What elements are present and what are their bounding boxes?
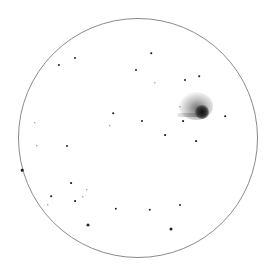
star [141,120,143,122]
star [74,200,76,202]
star [70,182,72,184]
star [195,140,197,142]
star [66,145,68,147]
star [224,115,226,117]
field-of-view-circle [18,18,258,258]
star [50,195,52,197]
star [21,169,24,172]
star [184,79,186,81]
star [179,204,181,206]
star [182,120,184,122]
star [135,69,137,71]
star [87,224,90,227]
star [198,75,200,77]
star [74,57,76,59]
eyepiece-sketch [0,0,271,273]
nebula-core [195,105,209,119]
star [112,112,114,114]
star [170,228,173,231]
star [150,52,152,54]
star [164,134,166,136]
